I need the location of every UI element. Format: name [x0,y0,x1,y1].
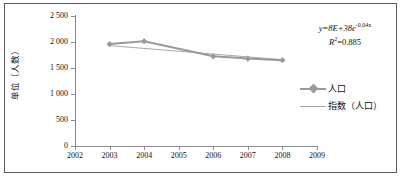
equation-line: y=8E+38e-0.04x [296,20,394,34]
chart-figure: 05001 0001 5002 0002 500 200220032004200… [0,0,404,179]
legend-item-trendline[interactable]: 指数（人口） [300,97,400,114]
r-squared-line: R2=0.885 [296,34,394,48]
population-series [106,38,285,63]
data-point-marker [141,38,147,44]
legend-item-population[interactable]: 人口 [300,80,400,97]
plot-area: 05001 0001 5002 0002 500 200220032004200… [0,0,404,179]
equation-body: y=8E+38e [319,23,356,33]
data-point-marker [279,57,285,63]
chart-legend: 人口 指数（人口） [300,80,400,114]
legend-label-population: 人口 [328,84,346,94]
legend-label-trendline: 指数（人口） [328,101,382,111]
trendline-equation: y=8E+38e-0.04x R2=0.885 [296,20,394,48]
r-squared-value: =0.885 [337,37,361,47]
equation-exponent: -0.04x [356,22,372,28]
legend-line-icon [300,101,326,111]
legend-marker-line-icon [300,84,326,94]
